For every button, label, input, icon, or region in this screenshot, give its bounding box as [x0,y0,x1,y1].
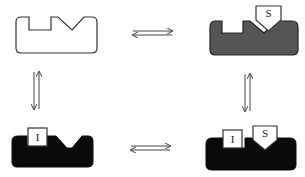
enzyme-shape-black [12,136,93,167]
arrow-bottom-equilibrium [131,146,170,150]
enzyme-shape-gray [210,21,298,55]
substrate-label: S [265,7,271,19]
arrow-top-equilibrium [133,31,172,35]
enzyme-substrate-bound-state: S [210,6,298,55]
enzyme-free-state [16,17,97,53]
enzyme-shape-black-double [206,138,296,170]
inhibitor-marker: I [28,128,47,146]
inhibitor-marker-2: I [223,130,242,148]
inhibitor-label: I [36,131,40,143]
arrow-right-equilibrium [245,74,250,111]
enzyme-inhibitor-bound-state: I [12,128,93,167]
equilibrium-diagram: S I I S [0,0,305,177]
inhibitor-label-2: I [231,133,235,145]
enzyme-inhibitor-substrate-bound-state: I S [206,126,296,170]
substrate-label-2: S [262,127,268,139]
arrow-left-equilibrium [34,72,39,109]
enzyme-shape-free [16,17,97,53]
